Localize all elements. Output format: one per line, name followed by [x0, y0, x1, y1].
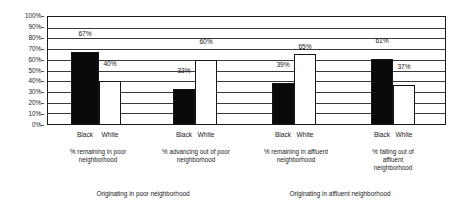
category-caption-4: % falling out of affluent neighborhood — [364, 148, 422, 173]
series-tick-g1-white: White — [102, 131, 119, 138]
bar-g2-black[interactable] — [173, 89, 195, 125]
bar-g2-white[interactable] — [195, 60, 217, 125]
y-tick-label-20: 20% — [29, 100, 42, 106]
y-tick-label-60: 60% — [29, 56, 42, 62]
bar-chart: 100% 90% 80% 70% 60% 50% 40% 30% 20% 10%… — [0, 0, 464, 211]
y-tick-label-40: 40% — [29, 78, 42, 84]
y-tick-mark-20 — [41, 103, 44, 104]
bars-layer — [47, 16, 446, 125]
series-tick-g1-black: Black — [77, 131, 93, 138]
y-tick-label-80: 80% — [29, 35, 42, 41]
bar-g4-white[interactable] — [393, 85, 415, 125]
y-tick-label-10: 10% — [29, 111, 42, 117]
category-caption-1: % remaining in poor neighborhood — [56, 148, 140, 164]
value-label-g1-white: 40% — [103, 60, 116, 67]
bar-g3-black[interactable] — [272, 83, 294, 126]
y-tick-mark-30 — [41, 92, 44, 93]
value-label-g4-white: 37% — [397, 63, 410, 70]
y-tick-mark-0 — [41, 125, 44, 126]
y-tick-label-100: 100% — [25, 13, 41, 19]
series-tick-g3-white: White — [297, 131, 314, 138]
value-label-g1-black: 67% — [78, 30, 91, 37]
group-caption-2: Originating in affluent neighborhood — [289, 190, 390, 198]
category-caption-3: % remaining in affluent neighborhood — [252, 148, 340, 164]
y-tick-label-70: 70% — [29, 45, 42, 51]
y-tick-mark-60 — [41, 60, 44, 61]
y-tick-mark-80 — [41, 38, 44, 39]
y-tick-mark-10 — [41, 114, 44, 115]
value-label-g2-black: 33% — [177, 67, 190, 74]
series-tick-g2-black: Black — [176, 131, 192, 138]
value-label-g3-black: 39% — [276, 61, 289, 68]
bar-g1-white[interactable] — [99, 81, 121, 125]
value-label-g3-white: 65% — [298, 43, 311, 50]
y-tick-mark-70 — [41, 49, 44, 50]
bar-g4-black[interactable] — [371, 59, 393, 126]
series-tick-g4-black: Black — [374, 131, 390, 138]
value-label-g2-white: 60% — [199, 38, 212, 45]
series-tick-g4-white: White — [396, 131, 413, 138]
bar-g1-black[interactable] — [71, 52, 99, 125]
value-label-g4-black: 61% — [375, 37, 388, 44]
y-tick-mark-40 — [41, 81, 44, 82]
y-tick-mark-90 — [41, 27, 44, 28]
series-tick-g3-black: Black — [275, 131, 291, 138]
series-tick-g2-white: White — [198, 131, 215, 138]
y-tick-label-90: 90% — [29, 24, 42, 30]
y-tick-mark-100 — [41, 16, 44, 17]
group-caption-1: Originating in poor neighborhood — [96, 190, 189, 198]
category-caption-2: % advancing out of poor neighborhood — [152, 148, 240, 164]
y-axis: 100% 90% 80% 70% 60% 50% 40% 30% 20% 10%… — [0, 12, 44, 128]
bar-g3-white[interactable] — [294, 54, 316, 125]
y-tick-label-0: 0% — [32, 122, 41, 128]
y-tick-label-30: 30% — [29, 89, 42, 95]
y-tick-label-50: 50% — [29, 67, 42, 73]
y-tick-mark-50 — [41, 71, 44, 72]
